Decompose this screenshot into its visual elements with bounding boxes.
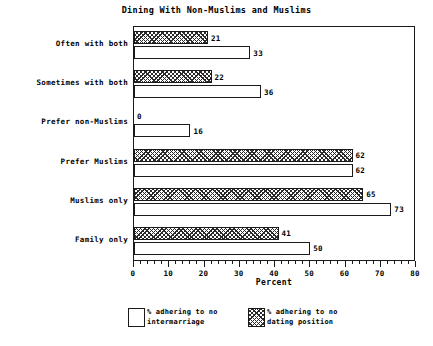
x-tick-minor xyxy=(182,261,183,264)
chart-legend: % adhering to no intermarriage% adhering… xyxy=(128,308,388,338)
x-tick-major xyxy=(204,261,205,267)
bar-value-label: 65 xyxy=(366,190,376,199)
x-tick-label: 30 xyxy=(234,269,244,278)
bar-value-label: 62 xyxy=(356,151,366,160)
legend-label: % adhering to no intermarriage xyxy=(147,308,218,327)
x-tick-label: 50 xyxy=(304,269,314,278)
bar-dating-position: 22 xyxy=(134,70,212,83)
x-tick-major xyxy=(133,261,134,267)
x-tick-minor xyxy=(140,261,141,264)
x-tick-minor xyxy=(401,261,402,264)
x-tick-major xyxy=(239,261,240,267)
bar-value-label: 50 xyxy=(313,244,323,253)
x-tick-major xyxy=(380,261,381,267)
x-tick-minor xyxy=(295,261,296,264)
x-tick-minor xyxy=(253,261,254,264)
category-row: Family only4150 xyxy=(134,223,414,262)
category-row: Muslims only6573 xyxy=(134,184,414,223)
legend-entry[interactable]: % adhering to no intermarriage xyxy=(128,308,218,327)
category-row: Sometimes with both2236 xyxy=(134,66,414,105)
x-tick-minor xyxy=(281,261,282,264)
bar-intermarriage: 73 xyxy=(134,203,391,216)
x-tick-minor xyxy=(175,261,176,264)
x-tick-label: 20 xyxy=(199,269,209,278)
bar-intermarriage: 16 xyxy=(134,124,190,137)
legend-swatch-white xyxy=(128,308,145,327)
legend-label: % adhering to no dating position xyxy=(267,308,338,327)
x-tick-minor xyxy=(408,261,409,264)
x-tick-minor xyxy=(337,261,338,264)
x-tick-major xyxy=(415,261,416,267)
bar-intermarriage: 50 xyxy=(134,242,310,255)
x-tick-minor xyxy=(387,261,388,264)
bar-value-label: 22 xyxy=(215,72,225,81)
category-label: Often with both xyxy=(56,39,128,48)
bar-value-label: 21 xyxy=(211,33,221,42)
bar-value-label: 33 xyxy=(253,48,263,57)
x-tick-label: 80 xyxy=(410,269,420,278)
legend-entry[interactable]: % adhering to no dating position xyxy=(248,308,338,327)
bar-value-label: 0 xyxy=(137,111,142,120)
bar-intermarriage: 33 xyxy=(134,46,250,59)
x-tick-minor xyxy=(394,261,395,264)
chart-figure: Dining With Non-Muslims and Muslims Ofte… xyxy=(0,0,433,346)
bar-dating-position: 41 xyxy=(134,227,279,240)
bar-dating-position: 62 xyxy=(134,149,353,162)
category-label: Prefer Muslims xyxy=(61,157,128,166)
x-tick-minor xyxy=(154,261,155,264)
legend-swatch-crosshatch xyxy=(248,308,265,327)
category-row: Often with both2133 xyxy=(134,27,414,66)
x-tick-major xyxy=(345,261,346,267)
x-tick-major xyxy=(309,261,310,267)
x-tick-minor xyxy=(196,261,197,264)
chart-title: Dining With Non-Muslims and Muslims xyxy=(0,5,433,15)
x-tick-minor xyxy=(330,261,331,264)
x-tick-minor xyxy=(323,261,324,264)
x-axis-title: Percent xyxy=(133,278,415,287)
category-row: Prefer Muslims6262 xyxy=(134,145,414,184)
category-label: Sometimes with both xyxy=(37,78,129,87)
x-tick-minor xyxy=(260,261,261,264)
bar-intermarriage: 36 xyxy=(134,85,261,98)
x-tick-minor xyxy=(366,261,367,264)
bar-dating-position: 65 xyxy=(134,188,363,201)
x-tick-minor xyxy=(147,261,148,264)
x-tick-label: 40 xyxy=(269,269,279,278)
x-tick-major xyxy=(274,261,275,267)
bar-value-label: 62 xyxy=(356,166,366,175)
x-tick-minor xyxy=(373,261,374,264)
x-tick-minor xyxy=(189,261,190,264)
x-tick-label: 10 xyxy=(163,269,173,278)
bar-value-label: 16 xyxy=(193,126,203,135)
x-tick-minor xyxy=(267,261,268,264)
x-tick-major xyxy=(168,261,169,267)
x-tick-label: 0 xyxy=(131,269,136,278)
bar-value-label: 36 xyxy=(264,87,274,96)
x-tick-minor xyxy=(302,261,303,264)
category-label: Muslims only xyxy=(70,196,128,205)
x-tick-minor xyxy=(211,261,212,264)
bar-value-label: 41 xyxy=(282,229,292,238)
category-label: Prefer non-Muslims xyxy=(41,117,128,126)
category-row: Prefer non-Muslims016 xyxy=(134,105,414,144)
x-tick-minor xyxy=(316,261,317,264)
x-tick-minor xyxy=(232,261,233,264)
bar-dating-position: 21 xyxy=(134,31,208,44)
x-tick-minor xyxy=(352,261,353,264)
x-tick-minor xyxy=(218,261,219,264)
x-tick-minor xyxy=(246,261,247,264)
bar-intermarriage: 62 xyxy=(134,164,353,177)
plot-area: Often with both2133Sometimes with both22… xyxy=(133,26,415,261)
x-tick-minor xyxy=(359,261,360,264)
x-tick-minor xyxy=(225,261,226,264)
x-tick-minor xyxy=(288,261,289,264)
category-label: Family only xyxy=(75,235,128,244)
x-tick-minor xyxy=(161,261,162,264)
x-tick-label: 60 xyxy=(340,269,350,278)
x-tick-label: 70 xyxy=(375,269,385,278)
bar-value-label: 73 xyxy=(394,205,404,214)
